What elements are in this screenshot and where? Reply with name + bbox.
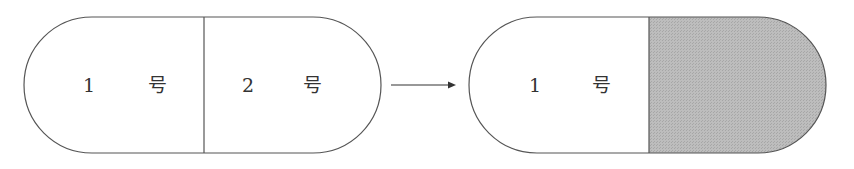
before-right-number: 2 (242, 76, 254, 95)
arrow (391, 82, 456, 89)
shaded-segment (649, 17, 826, 153)
after-left-unit: 号 (592, 76, 611, 95)
after-left-number: 1 (529, 76, 541, 95)
capsule-after (469, 17, 826, 153)
capsule-before (24, 17, 381, 153)
diagram-canvas (0, 0, 854, 169)
before-left-number: 1 (83, 76, 95, 95)
before-left-unit: 号 (148, 76, 167, 95)
before-right-unit: 号 (303, 76, 322, 95)
